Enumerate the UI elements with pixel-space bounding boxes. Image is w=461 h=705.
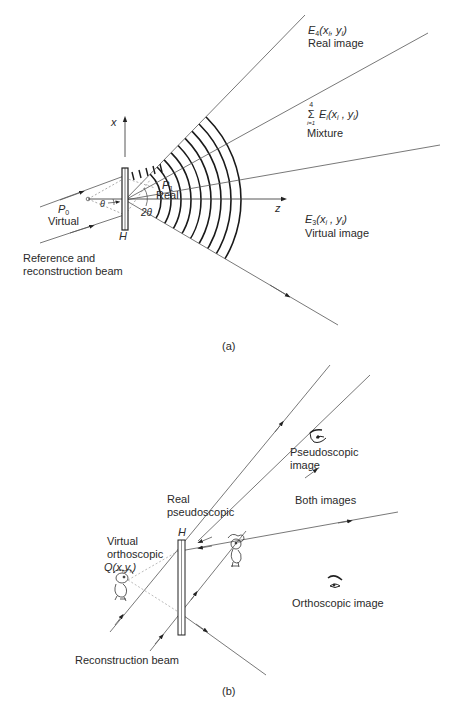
summation-symbol: 4 Σ i=1: [307, 101, 315, 127]
two-theta-label: 2θ: [141, 206, 152, 219]
sigma-icon: Σ: [307, 109, 315, 119]
real-pseudoscopic-label-1: Real: [167, 493, 190, 506]
real-image-label: Real image: [308, 37, 364, 50]
construction-line: [128, 580, 180, 613]
arrow-icon: [115, 616, 122, 625]
x-axis-label: x: [111, 116, 117, 129]
diagram-canvas: [0, 0, 461, 705]
virtual-orthoscopic-label-2: orthoscopic: [107, 548, 163, 561]
virtual-image-label: Virtual image: [305, 227, 369, 240]
real-label: Real: [156, 189, 179, 202]
figure-a: [9, 15, 440, 325]
arrow-icon: [196, 624, 206, 631]
eye-icon-orthoscopic: [328, 576, 342, 588]
q-point-label: Q(x,y,): [104, 561, 136, 574]
caption-a: (a): [222, 340, 235, 352]
virtual-label: Virtual: [48, 215, 79, 228]
e3-mid: , y: [327, 213, 342, 225]
e3-close: ): [343, 213, 347, 225]
theta-arrow-icon: [108, 202, 118, 203]
virtual-orthoscopic-label-1: Virtual: [107, 535, 138, 548]
mixture-label: Mixture: [307, 127, 343, 140]
theta-label: θ: [100, 198, 105, 211]
beam-label-line2: reconstruction beam: [23, 265, 123, 278]
arrow-icon: [60, 192, 82, 200]
mixture-args: (x: [328, 108, 337, 120]
e4-mid: , y: [330, 24, 342, 36]
figure-b: [110, 365, 398, 675]
pseudoscopic-image-label-2: image: [290, 459, 320, 472]
theta-arc: [113, 199, 114, 205]
mixture-formula: Ei(xi , yi): [319, 108, 359, 124]
arrow-icon: [155, 636, 162, 644]
orthoscopic-image-label: Orthoscopic image: [292, 597, 384, 610]
arrow-icon: [275, 423, 282, 432]
real-pseudoscopic-label-2: pseudoscopic: [167, 506, 234, 519]
reconstruction-beam-label: Reconstruction beam: [75, 654, 179, 667]
pseudoscopic-image-label-1: Pseudoscopic: [290, 446, 359, 459]
arrow-icon: [191, 593, 196, 600]
ray-lower-right: [180, 613, 266, 675]
mixture-mid: , y: [339, 108, 354, 120]
sum-lower-limit: i=1: [307, 119, 315, 127]
ray-reconstruction: [150, 531, 246, 651]
both-images-label: Both images: [295, 494, 356, 507]
hologram-label-b: H: [178, 526, 186, 539]
caption-b: (b): [222, 685, 235, 697]
virtual-object-figure: [113, 570, 133, 601]
z-axis-label: z: [275, 202, 281, 215]
eye-icon-pseudoscopic: [310, 430, 326, 443]
beam-label-line1: Reference and: [23, 252, 95, 265]
mixture-close: ): [355, 108, 359, 120]
hologram-label-a: H: [119, 230, 127, 243]
e4-close: ): [343, 24, 347, 36]
virtual-image-ray-arrow: [270, 285, 288, 296]
